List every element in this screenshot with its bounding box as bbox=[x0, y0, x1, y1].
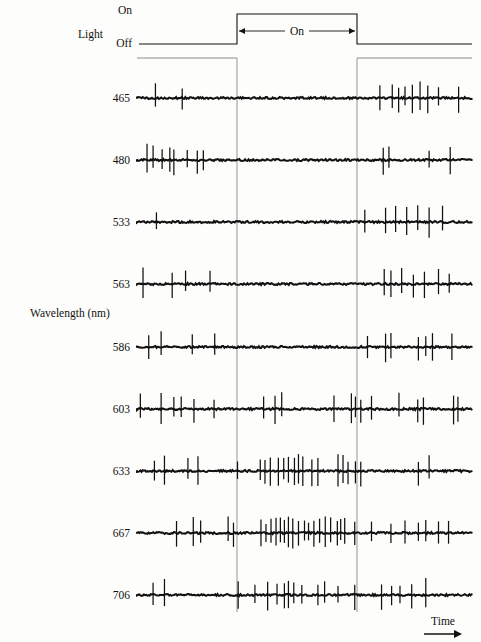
y-axis-label: Wavelength (nm) bbox=[30, 307, 110, 320]
baseline-noise bbox=[137, 221, 472, 223]
light-off-label: Off bbox=[116, 37, 132, 49]
light-on-label: On bbox=[118, 4, 132, 16]
spike-trace bbox=[137, 331, 472, 362]
baseline-noise bbox=[137, 594, 472, 596]
baseline-noise bbox=[137, 97, 472, 99]
light-label: Light bbox=[78, 28, 104, 41]
spike-traces-group bbox=[137, 82, 472, 611]
wavelength-label-586: 586 bbox=[113, 341, 131, 353]
wavelength-label-667: 667 bbox=[113, 527, 131, 539]
spike-train-figure: On 465480533563586603633667706LightOnOff… bbox=[0, 0, 481, 642]
spike-trace bbox=[137, 578, 472, 611]
wavelength-label-603: 603 bbox=[113, 403, 131, 415]
spike-trace bbox=[137, 517, 472, 549]
wavelength-label-706: 706 bbox=[113, 589, 131, 601]
time-arrow-icon bbox=[424, 630, 462, 638]
wavelength-label-480: 480 bbox=[113, 154, 131, 166]
on-duration-label: On bbox=[290, 25, 304, 37]
baseline-noise bbox=[137, 408, 472, 410]
spike-trace bbox=[137, 205, 472, 238]
spike-trace bbox=[137, 82, 472, 114]
spike-trace bbox=[137, 454, 472, 486]
spike-trace bbox=[137, 392, 472, 425]
baseline-noise bbox=[137, 283, 472, 285]
wavelength-label-465: 465 bbox=[113, 92, 131, 104]
baseline-noise bbox=[137, 346, 472, 348]
stimulus-trace-group: On bbox=[139, 14, 472, 44]
wavelength-label-633: 633 bbox=[113, 465, 131, 477]
spike-trace bbox=[137, 268, 472, 298]
baseline-noise bbox=[137, 470, 472, 472]
x-axis-label: Time bbox=[431, 615, 455, 627]
wavelength-label-563: 563 bbox=[113, 278, 131, 290]
wavelength-label-533: 533 bbox=[113, 216, 131, 228]
spike-trace bbox=[137, 144, 472, 176]
